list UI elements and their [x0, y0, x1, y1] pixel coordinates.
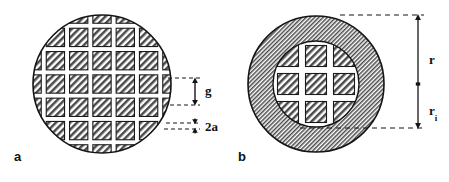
grid-pad	[139, 98, 157, 116]
grid-pad	[70, 75, 88, 93]
grid-aperture-figure	[0, 0, 449, 182]
grid-pad	[93, 75, 111, 93]
panel-a-label: a	[14, 150, 21, 163]
grid-pad	[70, 52, 88, 70]
grid-pad	[139, 52, 157, 70]
grid-pad	[116, 28, 134, 46]
grid-pad	[306, 102, 327, 123]
grid-pad	[46, 52, 64, 70]
grid-pad	[46, 98, 64, 116]
grid-pad	[93, 28, 111, 46]
grid-pad	[70, 121, 88, 139]
panel-b-label: b	[238, 150, 246, 163]
grid-pad	[70, 28, 88, 46]
grid-pad	[116, 98, 134, 116]
dimension-ri-base: r	[429, 103, 435, 118]
grid-pad	[139, 75, 157, 93]
dimension-ri-subscript: i	[435, 113, 438, 123]
dimension-center-tick	[416, 82, 420, 85]
grid-pad	[46, 75, 64, 93]
dimension-r-label: r	[429, 53, 435, 66]
grid-pad	[116, 121, 134, 139]
dimension-2a-label: 2a	[205, 120, 218, 133]
grid-pad	[93, 98, 111, 116]
grid-pad	[306, 74, 327, 95]
grid-pad	[116, 52, 134, 70]
grid-pad	[116, 75, 134, 93]
grid-pad	[93, 52, 111, 70]
dimension-g-label: g	[205, 84, 212, 97]
grid-pad	[278, 74, 299, 95]
dimension-ri-label: ri	[429, 104, 437, 121]
grid-pad	[306, 46, 327, 67]
grid-pad	[70, 98, 88, 116]
grid-pad	[334, 74, 355, 95]
grid-pad	[93, 121, 111, 139]
